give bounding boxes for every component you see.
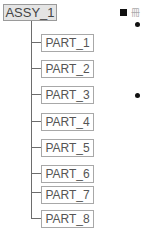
part-node-7: PART_7 bbox=[41, 186, 94, 204]
branch-line bbox=[31, 121, 41, 122]
part-node-3: PART_3 bbox=[41, 86, 94, 104]
part-node-2: PART_2 bbox=[41, 60, 94, 78]
branch-line bbox=[31, 68, 41, 69]
branch-line bbox=[31, 94, 41, 95]
part-node-5: PART_5 bbox=[41, 139, 94, 157]
branch-line bbox=[31, 173, 41, 174]
part-node-8: PART_8 bbox=[41, 210, 94, 228]
bullet-dot-icon bbox=[135, 22, 140, 27]
assembly-node-assy-1: ASSY_1 bbox=[3, 4, 57, 21]
part-node-6: PART_6 bbox=[41, 165, 94, 183]
part-node-4: PART_4 bbox=[41, 113, 94, 131]
branch-line bbox=[31, 42, 41, 43]
square-bullet-icon bbox=[120, 9, 127, 16]
branch-line bbox=[31, 192, 41, 193]
bullet-dot-icon bbox=[135, 93, 140, 98]
tree-trunk-line bbox=[31, 21, 32, 218]
branch-line bbox=[31, 218, 41, 219]
cut-off-heading-text: 冊 bbox=[131, 6, 140, 19]
branch-line bbox=[31, 147, 41, 148]
part-node-1: PART_1 bbox=[41, 34, 94, 52]
